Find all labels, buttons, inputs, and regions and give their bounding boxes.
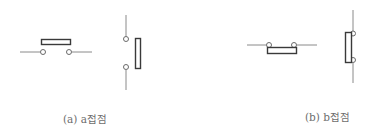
caption-b: (b) b접점	[305, 111, 350, 123]
right-terminal	[67, 50, 72, 55]
left-terminal	[267, 43, 272, 48]
caption-a: (a) a접점	[63, 113, 107, 125]
bottom-terminal	[124, 65, 129, 70]
movable-contact-bar	[136, 39, 141, 69]
right-terminal	[292, 43, 297, 48]
a-contact-horizontal	[20, 40, 92, 55]
b-contact-vertical	[346, 10, 356, 83]
contact-symbols-diagram: (a) a접점 (b) b접점	[0, 0, 372, 137]
a-contact-vertical	[124, 15, 141, 90]
left-terminal	[41, 50, 46, 55]
top-terminal	[124, 37, 129, 42]
b-contact-horizontal	[247, 43, 317, 54]
movable-contact-bar	[346, 33, 352, 63]
movable-contact-bar	[268, 48, 297, 54]
movable-contact-bar	[42, 40, 71, 45]
